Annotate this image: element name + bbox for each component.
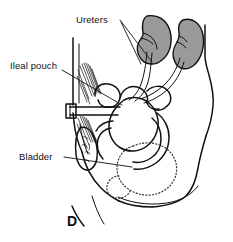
anatomy-illustration: Ureters Ileal pouch Bladder D xyxy=(0,0,233,242)
panel-letter: D xyxy=(67,213,77,229)
label-ureters: Ureters xyxy=(76,14,108,25)
label-ileal-pouch: Ileal pouch xyxy=(10,60,57,71)
figure-panel-d: Ureters Ileal pouch Bladder D xyxy=(0,0,233,242)
label-bladder: Bladder xyxy=(19,151,52,162)
left-kidney xyxy=(137,16,171,64)
